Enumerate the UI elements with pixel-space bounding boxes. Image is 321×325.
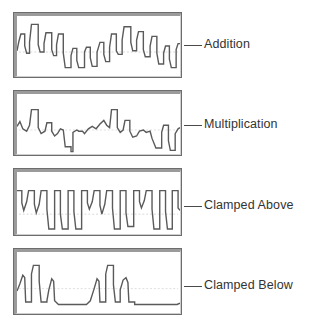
- waveform-plot-clamped-below: [17, 252, 180, 313]
- figure-row-clamped-above: Clamped Above: [0, 168, 321, 236]
- figure-row-multiplication: Multiplication: [0, 90, 321, 158]
- figure-row-clamped-below: Clamped Below: [0, 248, 321, 316]
- panel-clamped-above: [13, 168, 182, 236]
- figure-row-addition: Addition: [0, 12, 321, 80]
- panel-label-clamped-above: Clamped Above: [204, 198, 294, 212]
- panel-clamped-below: [13, 248, 182, 315]
- leader-line-addition: [184, 45, 202, 46]
- waveform-figure: Addition Multiplication Clamped Above: [0, 0, 321, 325]
- waveform-plot-multiplication: [17, 94, 180, 154]
- waveform-plot-clamped-above: [17, 172, 180, 234]
- panel-addition: [13, 12, 182, 78]
- waveform-plot-addition: [17, 16, 180, 76]
- leader-line-clamped-above: [184, 206, 202, 207]
- panel-label-addition: Addition: [204, 37, 250, 51]
- panel-multiplication: [13, 90, 182, 156]
- waveform-trace-clamped-above: [17, 191, 180, 229]
- panel-label-multiplication: Multiplication: [204, 117, 278, 131]
- leader-line-clamped-below: [184, 286, 202, 287]
- waveform-trace-addition: [17, 24, 180, 67]
- waveform-trace-clamped-below: [17, 265, 180, 304]
- waveform-trace-multiplication: [17, 110, 180, 152]
- panel-label-clamped-below: Clamped Below: [204, 278, 293, 292]
- leader-line-multiplication: [184, 125, 202, 126]
